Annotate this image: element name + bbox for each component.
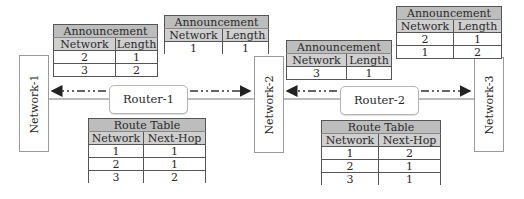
column-header: Network	[397, 20, 454, 33]
column-header: Length	[347, 54, 392, 67]
column-header: Network	[165, 29, 223, 42]
cell: 2	[379, 147, 441, 160]
router-2-label: Router-2	[354, 93, 405, 107]
cell: 1	[144, 145, 206, 158]
table-row: 1 1	[165, 42, 269, 55]
cell: 2	[397, 33, 454, 46]
cell: 1	[347, 67, 392, 80]
column-header: Network	[89, 132, 144, 145]
cell: 2	[454, 46, 502, 59]
cell: 3	[322, 173, 379, 186]
table-title: Announcement	[54, 25, 158, 38]
table-title: Route Table	[322, 121, 441, 134]
announcement-table-2: Announcement Network Length 1 1	[164, 15, 269, 54]
column-header: Length	[116, 38, 158, 51]
network-3-label: Network-3	[483, 75, 496, 134]
announcement-table-1: Announcement Network Length 2 1 3 2	[53, 24, 158, 77]
cell: 2	[54, 51, 116, 64]
column-header: Next-Hop	[144, 132, 206, 145]
network-1-label: Network-1	[28, 74, 41, 133]
cell: 1	[165, 42, 223, 55]
column-header: Length	[223, 29, 269, 42]
table-row: 1 2	[397, 46, 502, 59]
router-1-label: Router-1	[123, 92, 174, 106]
table-row: 2 1	[54, 51, 158, 64]
table-row: 2 1	[322, 160, 441, 173]
column-header: Length	[454, 20, 502, 33]
network-2-label: Network-2	[263, 75, 276, 134]
table-title: Announcement	[397, 7, 502, 20]
cell: 1	[322, 147, 379, 160]
cell: 2	[322, 160, 379, 173]
cell: 2	[116, 64, 158, 77]
table-row: 1 2	[322, 147, 441, 160]
table-row: 2 1	[89, 158, 206, 171]
cell: 1	[144, 158, 206, 171]
cell: 2	[89, 158, 144, 171]
cell: 1	[397, 46, 454, 59]
table-title: Route Table	[89, 119, 206, 132]
cell: 1	[223, 42, 269, 55]
column-header: Network	[287, 54, 347, 67]
announcement-table-4: Announcement Network Length 2 1 1 2	[396, 6, 502, 59]
table-row: 3 2	[54, 64, 158, 77]
network-3-box: Network-3	[474, 57, 504, 152]
cell: 1	[379, 160, 441, 173]
route-table-2: Route Table Network Next-Hop 1 2 2 1 3 1	[321, 120, 441, 185]
cell: 3	[287, 67, 347, 80]
cell: 3	[89, 171, 144, 184]
cell: 2	[144, 171, 206, 184]
table-title: Announcement	[165, 16, 269, 29]
cell: 1	[454, 33, 502, 46]
table-row: 1 1	[89, 145, 206, 158]
table-row: 3 1	[322, 173, 441, 186]
announcement-table-3: Announcement Network Length 3 1	[286, 40, 392, 80]
column-header: Network	[54, 38, 116, 51]
column-header: Next-Hop	[379, 134, 441, 147]
cell: 1	[379, 173, 441, 186]
cell: 3	[54, 64, 116, 77]
network-2-box: Network-2	[254, 56, 284, 153]
table-row: 2 1	[397, 33, 502, 46]
table-title: Announcement	[287, 41, 392, 54]
table-row: 3 2	[89, 171, 206, 184]
cell: 1	[89, 145, 144, 158]
column-header: Network	[322, 134, 379, 147]
router-2: Router-2	[340, 86, 419, 115]
route-table-1: Route Table Network Next-Hop 1 1 2 1 3 2	[88, 118, 206, 183]
cell: 1	[116, 51, 158, 64]
network-1-box: Network-1	[19, 55, 49, 152]
router-1: Router-1	[109, 85, 188, 114]
table-row: 3 1	[287, 67, 392, 80]
